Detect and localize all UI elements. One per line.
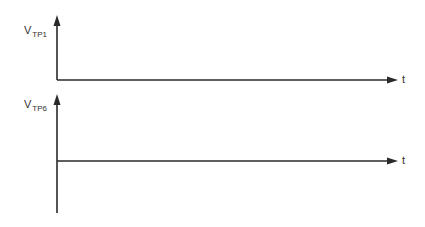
plot-vtp6 (54, 94, 399, 213)
vtp6-y-label-main: V (24, 98, 31, 110)
vtp6-y-axis-arrow-icon (54, 94, 61, 105)
vtp1-y-label: VTP1 (24, 25, 47, 36)
vtp1-x-label: t (402, 74, 405, 85)
vtp1-y-label-main: V (24, 24, 31, 36)
vtp1-x-axis-arrow-icon (387, 77, 398, 84)
vtp1-y-label-sub: TP1 (32, 30, 47, 39)
vtp6-y-label: VTP6 (24, 99, 47, 110)
vtp6-x-label: t (402, 155, 405, 166)
timing-diagram (0, 0, 425, 227)
plot-vtp1 (54, 15, 399, 84)
vtp6-y-label-sub: TP6 (32, 104, 47, 113)
vtp1-y-axis-arrow-icon (54, 15, 61, 26)
vtp6-x-axis-arrow-icon (387, 158, 398, 165)
